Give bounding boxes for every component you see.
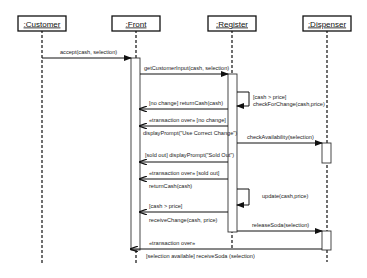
message-transaction-over-sold-out: «transaction over» [sold out] — [140, 170, 228, 179]
object-register-label: :Register — [216, 20, 248, 29]
message-receive-soda: «transaction over» [selection available]… — [131, 240, 322, 259]
message-release-soda-label: releaseSoda(selection) — [252, 222, 309, 228]
message-check-for-change-guard: [cash > price] — [253, 94, 287, 100]
activation-dispenser-2 — [322, 231, 331, 250]
message-return-cash: returnCash(cash) — [149, 183, 192, 189]
message-transaction-over-no-change: «transaction over» [no change] — [140, 117, 228, 126]
message-receive-change: [cash > price] receiveChange(cash, price… — [140, 203, 228, 223]
object-customer-label: :Customer — [24, 20, 61, 29]
message-display-prompt-sold-out: [sold out] displayPrompt("Sold Out") — [140, 152, 234, 162]
message-accept: accept(cash, selection) — [42, 49, 131, 58]
message-receive-change-guard: [cash > price] — [149, 203, 183, 209]
message-receive-change-label: receiveChange(cash, price) — [149, 217, 218, 223]
message-return-cash-no-change-label: [no change] returnCash(cash) — [149, 100, 223, 106]
message-get-customer-input-label: getCustomerInput(cash, selection) — [144, 65, 229, 71]
message-receive-soda-label: [selection available] receiveSoda (selec… — [146, 253, 255, 259]
message-display-prompt-correct-change: displayPrompt("Use Correct Change") — [143, 130, 237, 136]
message-receive-soda-stereotype: «transaction over» — [149, 240, 195, 246]
message-display-prompt-sold-out-label: [sold out] displayPrompt("Sold Out") — [145, 152, 234, 158]
message-return-cash-label: returnCash(cash) — [149, 183, 192, 189]
object-front-label: :Front — [126, 20, 148, 29]
object-dispenser-label: :Dispenser — [308, 20, 347, 29]
object-front: :Front — [112, 16, 160, 31]
message-return-cash-no-change: [no change] returnCash(cash) — [140, 100, 228, 109]
message-get-customer-input: getCustomerInput(cash, selection) — [140, 65, 229, 74]
message-update: update(cash,price) — [237, 189, 308, 205]
message-check-availability-label: checkAvailability(selection) — [247, 134, 314, 140]
activation-front — [131, 58, 140, 250]
message-transaction-over-sold-out-label: «transaction over» [sold out] — [149, 170, 220, 176]
sequence-diagram: :Customer :Front :Register :Dispenser ac… — [0, 0, 367, 278]
message-release-soda: releaseSoda(selection) — [237, 222, 322, 231]
message-update-label: update(cash,price) — [262, 193, 308, 199]
message-display-prompt-correct-change-label: displayPrompt("Use Correct Change") — [143, 130, 237, 136]
object-register: :Register — [208, 16, 256, 31]
message-check-for-change-label: checkForChange(cash,price) — [253, 101, 325, 107]
message-check-for-change: [cash > price] checkForChange(cash,price… — [237, 92, 325, 107]
message-transaction-over-no-change-label: «transaction over» [no change] — [149, 117, 226, 123]
message-check-availability: checkAvailability(selection) — [237, 134, 322, 143]
activation-dispenser-1 — [322, 143, 331, 163]
message-accept-label: accept(cash, selection) — [60, 49, 117, 55]
object-dispenser: :Dispenser — [303, 16, 351, 31]
object-customer: :Customer — [18, 16, 66, 31]
